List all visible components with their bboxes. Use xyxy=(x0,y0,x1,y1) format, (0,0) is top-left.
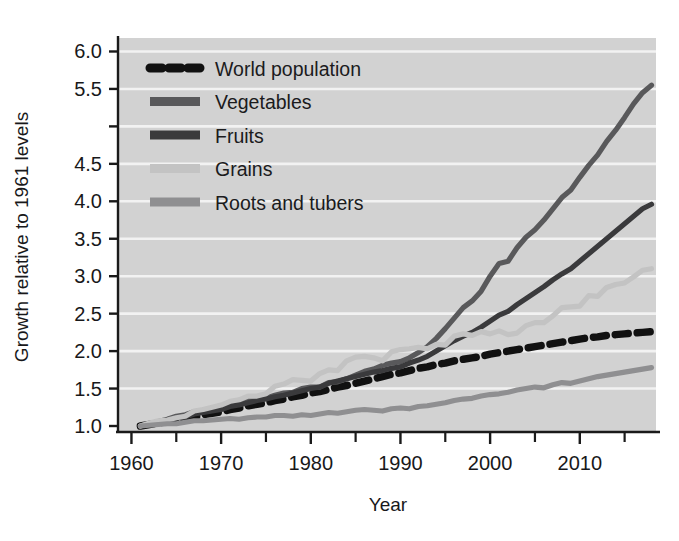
legend-swatch-icon xyxy=(150,164,200,173)
legend-label: Roots and tubers xyxy=(215,192,364,214)
x-tick-label: 2010 xyxy=(558,452,603,474)
legend-label: Fruits xyxy=(215,125,264,147)
legend-swatch-icon xyxy=(150,198,200,207)
y-tick-label: 2.5 xyxy=(74,303,102,325)
x-tick-label: 1980 xyxy=(289,452,334,474)
legend-swatch-icon xyxy=(150,131,200,140)
growth-relative-to-1961-line-chart: 1.01.52.02.53.03.54.04.55.56.0 196019701… xyxy=(0,0,679,541)
y-tick-label: 4.0 xyxy=(74,190,102,212)
legend-label: Vegetables xyxy=(215,91,312,113)
y-tick-label: 1.5 xyxy=(74,378,102,400)
x-tick-label: 2000 xyxy=(468,452,513,474)
y-tick-label: 3.0 xyxy=(74,265,102,287)
x-axis-title: Year xyxy=(369,494,408,515)
x-tick-label: 1990 xyxy=(378,452,423,474)
y-tick-label: 6.0 xyxy=(74,40,102,62)
y-axis-title: Growth relative to 1961 levels xyxy=(11,112,32,362)
legend-swatch-icon xyxy=(150,97,200,106)
y-tick-label: 4.5 xyxy=(74,153,102,175)
y-tick-label: 2.0 xyxy=(74,340,102,362)
chart-figure: 1.01.52.02.53.03.54.04.55.56.0 196019701… xyxy=(0,0,679,541)
y-tick-label: 5.5 xyxy=(74,78,102,100)
y-tick-label: 3.5 xyxy=(74,228,102,250)
x-tick-label: 1970 xyxy=(199,452,244,474)
y-tick-label: 1.0 xyxy=(74,415,102,437)
legend-label: World population xyxy=(215,58,361,80)
x-tick-label: 1960 xyxy=(109,452,154,474)
legend-label: Grains xyxy=(215,158,273,180)
